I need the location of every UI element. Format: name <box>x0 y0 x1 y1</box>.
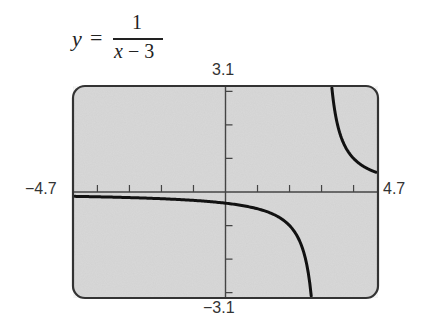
calculator-graph-screen <box>0 0 430 336</box>
